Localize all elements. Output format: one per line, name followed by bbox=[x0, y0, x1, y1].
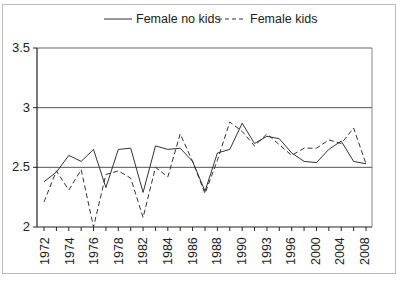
x-tick-label: 1972 bbox=[38, 237, 52, 265]
x-tick-label: 2000 bbox=[309, 237, 323, 265]
x-tick-label: 1974 bbox=[63, 237, 77, 265]
series-line-1 bbox=[44, 122, 366, 227]
x-tick-label: 2008 bbox=[358, 237, 372, 265]
x-tick-label: 2004 bbox=[333, 237, 347, 265]
x-tick-label: 1982 bbox=[136, 237, 150, 265]
x-tick-label: 1996 bbox=[284, 237, 298, 265]
x-tick-label: 1984 bbox=[161, 237, 175, 265]
x-tick-label: 1978 bbox=[112, 237, 126, 265]
x-tick-label: 1990 bbox=[235, 237, 249, 265]
x-tick-label: 1986 bbox=[186, 237, 200, 265]
series-line-0 bbox=[44, 123, 366, 192]
x-tick-label: 1988 bbox=[210, 237, 224, 265]
x-tick-label: 1976 bbox=[87, 237, 101, 265]
x-tick-label: 1993 bbox=[260, 237, 274, 265]
